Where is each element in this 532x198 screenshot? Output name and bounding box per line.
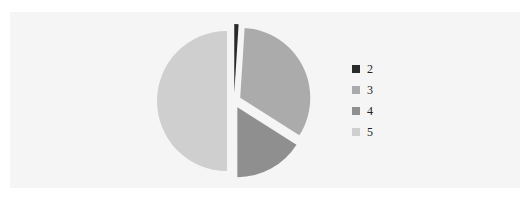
chart-legend: 2 3 4 5 <box>352 58 373 142</box>
legend-label: 3 <box>367 84 373 96</box>
legend-label: 5 <box>367 126 373 138</box>
legend-swatch <box>352 128 360 136</box>
legend-item-4: 4 <box>352 100 373 121</box>
legend-item-3: 3 <box>352 79 373 100</box>
pie-slice-5 <box>157 31 227 171</box>
legend-swatch <box>352 86 360 94</box>
legend-swatch <box>352 65 360 73</box>
pie-chart <box>0 0 532 198</box>
legend-label: 2 <box>367 63 373 75</box>
pie-slice-2 <box>234 24 238 94</box>
legend-item-5: 5 <box>352 121 373 142</box>
legend-label: 4 <box>367 105 373 117</box>
legend-swatch <box>352 107 360 115</box>
legend-item-2: 2 <box>352 58 373 79</box>
